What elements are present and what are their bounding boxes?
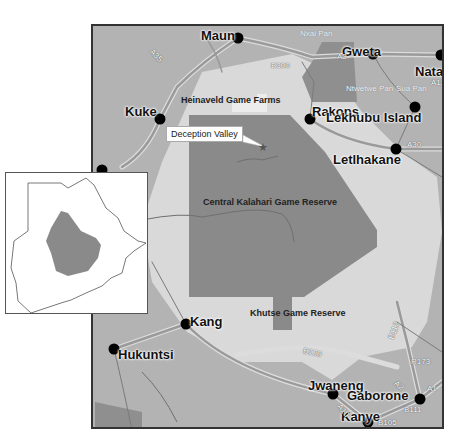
inset-map <box>5 172 148 314</box>
botswana-outline <box>6 173 149 315</box>
star-icon[interactable]: ★ <box>258 141 268 154</box>
callout-deception-valley[interactable]: Deception Valley <box>166 126 243 142</box>
